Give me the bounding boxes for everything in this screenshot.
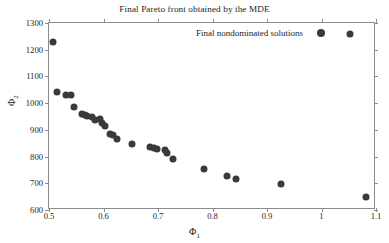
scatter-point <box>232 176 239 183</box>
legend-marker-icon <box>317 29 325 37</box>
scatter-point <box>129 140 136 147</box>
y-axis-title: Φ2 <box>6 95 20 106</box>
scatter-point <box>49 38 56 45</box>
chart-legend: Final nondominated solutions <box>196 28 325 38</box>
scatter-point <box>223 172 230 179</box>
scatter-point <box>169 155 176 162</box>
scatter-point <box>114 135 121 142</box>
y-tick <box>45 157 49 158</box>
x-tick-label: 0.9 <box>262 211 273 221</box>
x-tick-label: 0.5 <box>44 211 55 221</box>
x-tick-label: 1.1 <box>371 211 382 221</box>
x-tick-top <box>104 19 105 23</box>
y-axis-title-sub: 2 <box>12 95 20 99</box>
plot-area: 6007008009001000110012001300 0.50.60.70.… <box>48 22 375 209</box>
x-tick-top <box>267 19 268 23</box>
y-tick-right <box>374 23 378 24</box>
scatter-point <box>54 88 61 95</box>
x-tick-top <box>376 19 377 23</box>
y-tick-label: 600 <box>30 205 43 215</box>
x-axis-title: Φ1 <box>0 226 389 240</box>
x-tick-label: 0.7 <box>153 211 164 221</box>
y-tick-right <box>374 157 378 158</box>
scatter-point <box>347 30 354 37</box>
y-tick <box>45 183 49 184</box>
x-axis-title-sub: 1 <box>196 232 200 240</box>
x-tick-label: 1 <box>319 211 323 221</box>
scatter-point <box>71 104 78 111</box>
y-tick-right <box>374 50 378 51</box>
scatter-point <box>154 146 161 153</box>
x-tick-top <box>49 19 50 23</box>
y-tick <box>45 130 49 131</box>
legend-label: Final nondominated solutions <box>196 28 303 38</box>
scatter-point <box>102 122 109 129</box>
y-tick-right <box>374 183 378 184</box>
scatter-point <box>278 180 285 187</box>
y-tick-label: 1000 <box>26 98 43 108</box>
y-tick <box>45 50 49 51</box>
y-tick <box>45 23 49 24</box>
pareto-front-chart: Final Pareto front obtained by the MDE 6… <box>0 0 389 243</box>
y-tick <box>45 76 49 77</box>
y-tick-label: 900 <box>30 125 43 135</box>
y-tick-label: 800 <box>30 152 43 162</box>
y-tick-label: 1200 <box>26 45 43 55</box>
x-tick-top <box>213 19 214 23</box>
x-tick-top <box>322 19 323 23</box>
y-axis-title-base: Φ <box>6 99 17 106</box>
y-tick-label: 700 <box>30 178 43 188</box>
y-tick-label: 1300 <box>26 18 43 28</box>
scatter-point <box>200 166 207 173</box>
x-tick-top <box>158 19 159 23</box>
x-tick-label: 0.6 <box>98 211 109 221</box>
y-tick <box>45 103 49 104</box>
y-tick-right <box>374 103 378 104</box>
y-tick-label: 1100 <box>26 71 43 81</box>
y-tick-right <box>374 130 378 131</box>
scatter-point <box>363 193 370 200</box>
scatter-point <box>67 92 74 99</box>
chart-title: Final Pareto front obtained by the MDE <box>0 4 389 14</box>
x-tick-label: 0.8 <box>207 211 218 221</box>
y-tick-right <box>374 76 378 77</box>
